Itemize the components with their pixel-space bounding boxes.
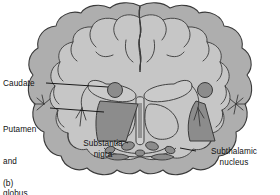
- label-putamen-line-2: and: [3, 157, 36, 168]
- figure-caption: (b): [3, 178, 13, 188]
- anatomical-figure: Caudate Putamen and globus pallidus Subs…: [0, 0, 280, 195]
- label-caudate: Caudate: [3, 79, 35, 90]
- label-subthalamic-nucleus: Subthalamic nucleus: [199, 147, 269, 168]
- label-putamen-line-3: globus: [3, 189, 36, 195]
- label-putamen-line-1: Putamen: [3, 125, 36, 136]
- label-substantia-nigra: Substantia nigra: [72, 139, 134, 160]
